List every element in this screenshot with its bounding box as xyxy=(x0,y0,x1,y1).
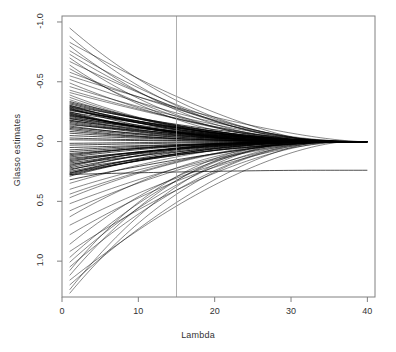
glasso-regularization-path-figure: Glasso estimates Lambda -1.0-0.50.00.51.… xyxy=(0,0,396,352)
y-tick-label: 0.5 xyxy=(35,187,45,213)
x-tick-label: 40 xyxy=(354,306,380,316)
y-tick-label: 0.0 xyxy=(35,128,45,154)
x-tick-label: 10 xyxy=(125,306,151,316)
plot-canvas xyxy=(0,0,396,352)
x-tick-label: 20 xyxy=(202,306,228,316)
y-tick-label: -1.0 xyxy=(35,8,45,34)
y-axis-title: Glasso estimates xyxy=(12,100,22,200)
figure-background xyxy=(0,0,396,352)
y-tick-label: 1.0 xyxy=(35,247,45,273)
y-tick-label: -0.5 xyxy=(35,68,45,94)
x-tick-label: 0 xyxy=(49,306,75,316)
x-axis-title: Lambda xyxy=(148,330,248,340)
x-tick-label: 30 xyxy=(278,306,304,316)
